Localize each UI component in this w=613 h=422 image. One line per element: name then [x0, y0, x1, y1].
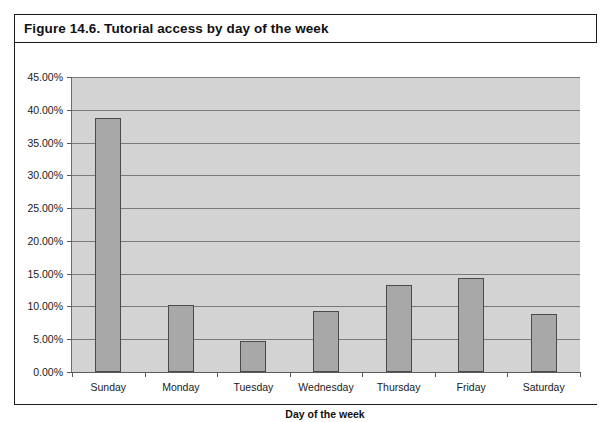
bar-saturday — [531, 314, 557, 372]
x-axis-tick — [217, 372, 218, 377]
bar-thursday — [386, 285, 412, 372]
x-axis-tick-label-sunday: Sunday — [90, 381, 126, 393]
y-axis-tick — [67, 241, 72, 242]
x-axis-tick-label-monday: Monday — [162, 381, 199, 393]
x-axis-tick — [435, 372, 436, 377]
gridline — [72, 241, 580, 242]
y-axis-tick-label: 5.00% — [33, 333, 63, 345]
bar-tuesday — [240, 341, 266, 372]
x-axis-tick — [145, 372, 146, 377]
y-axis-tick-label: 45.00% — [27, 71, 63, 83]
y-axis-tick-label: 30.00% — [27, 169, 63, 181]
x-axis-title: Day of the week — [71, 408, 579, 420]
bar-monday — [168, 305, 194, 372]
y-axis-tick-label: 40.00% — [27, 104, 63, 116]
x-axis-tick-label-thursday: Thursday — [377, 381, 421, 393]
chart-canvas: 0.00%5.00%10.00%15.00%20.00%25.00%30.00%… — [15, 43, 598, 404]
gridline — [72, 110, 580, 111]
y-axis-tick-label: 0.00% — [33, 366, 63, 378]
y-axis-tick-label: 35.00% — [27, 137, 63, 149]
y-axis-tick — [67, 339, 72, 340]
y-axis-tick-label: 15.00% — [27, 268, 63, 280]
x-axis-tick-label-tuesday: Tuesday — [233, 381, 273, 393]
gridline — [72, 175, 580, 176]
y-axis-tick — [67, 143, 72, 144]
x-axis-tick — [580, 372, 581, 377]
y-axis-tick-label: 25.00% — [27, 202, 63, 214]
x-axis-tick — [290, 372, 291, 377]
y-axis-tick-label: 10.00% — [27, 300, 63, 312]
bar-friday — [458, 278, 484, 372]
y-axis-tick — [67, 274, 72, 275]
x-axis-tick — [72, 372, 73, 377]
bar-wednesday — [313, 311, 339, 372]
x-axis-tick-label-wednesday: Wednesday — [298, 381, 353, 393]
gridline — [72, 274, 580, 275]
x-axis-tick-label-friday: Friday — [457, 381, 486, 393]
x-axis-tick-label-saturday: Saturday — [523, 381, 565, 393]
gridline — [72, 306, 580, 307]
y-axis-tick — [67, 110, 72, 111]
figure-caption: Figure 14.6. Tutorial access by day of t… — [15, 15, 596, 43]
figure-caption-text: Figure 14.6. Tutorial access by day of t… — [15, 21, 329, 36]
y-axis-tick — [67, 208, 72, 209]
y-axis-tick — [67, 306, 72, 307]
bar-sunday — [95, 118, 121, 372]
gridline — [72, 208, 580, 209]
figure-frame: Figure 14.6. Tutorial access by day of t… — [14, 14, 597, 405]
x-axis-tick — [507, 372, 508, 377]
y-axis-tick — [67, 77, 72, 78]
y-axis-tick-label: 20.00% — [27, 235, 63, 247]
y-axis-tick — [67, 175, 72, 176]
x-axis-tick — [362, 372, 363, 377]
gridline — [72, 77, 580, 78]
plot-area: 0.00%5.00%10.00%15.00%20.00%25.00%30.00%… — [71, 77, 580, 373]
gridline — [72, 143, 580, 144]
